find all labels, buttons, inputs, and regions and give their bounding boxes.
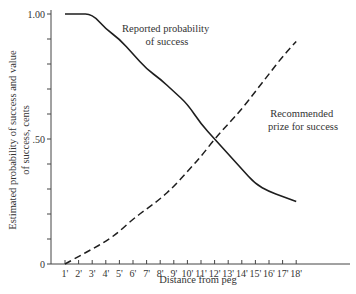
x-tick-label: 1' — [62, 268, 69, 279]
x-tick-label: 14' — [236, 268, 248, 279]
x-axis-title: Distance from peg — [159, 274, 237, 285]
x-tick-label: 5' — [116, 268, 123, 279]
recommended-prize-line — [65, 42, 296, 265]
x-tick-label: 7' — [143, 268, 150, 279]
y-tick-label: 1.00 — [28, 9, 46, 20]
svg-text:Estimated probability of succe: Estimated probability of success and val… — [7, 50, 18, 230]
axes — [47, 10, 350, 264]
x-tick-label: 3' — [89, 268, 96, 279]
y-axis-title: Estimated probability of success and val… — [7, 50, 31, 230]
x-tick-label: 18' — [290, 268, 302, 279]
annotation-prize: Recommended prize for success — [268, 108, 338, 132]
x-tick-label: 16' — [263, 268, 275, 279]
x-tick-label: 2' — [75, 268, 82, 279]
x-tick-label: 17' — [277, 268, 289, 279]
y-tick-label: .50 — [33, 134, 46, 145]
y-tick-label: 0 — [40, 259, 45, 270]
x-tick-label: 4' — [102, 268, 109, 279]
annotation-probability: Reported probability of success — [122, 23, 212, 47]
line-chart: 0.501.00 1'2'3'4'5'6'7'8'9'10'11'12'13'1… — [0, 0, 356, 294]
x-tick-label: 15' — [249, 268, 261, 279]
x-tick-label: 6' — [130, 268, 137, 279]
svg-text:of success, cents: of success, cents — [20, 105, 31, 175]
